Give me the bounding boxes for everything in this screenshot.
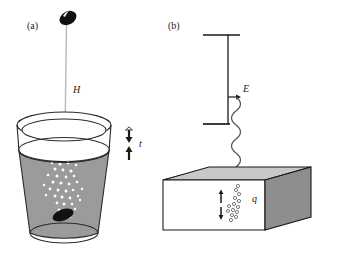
field-label: E [242,83,249,94]
beaker [17,112,111,243]
down-arrow-icon [126,127,133,143]
falling-object-icon [57,8,79,28]
time-indicator: t [126,127,143,160]
panel-b: (b) E [163,20,311,230]
panel-a: (a) H [17,8,142,243]
scientific-figure: (a) H [0,0,337,259]
time-label: t [139,138,142,149]
up-arrow-icon [126,146,133,160]
panel-a-label: (a) [27,20,38,32]
panel-b-label: (b) [168,20,180,32]
figure-canvas: (a) H [0,0,337,259]
slab-block [163,167,311,230]
height-label: H [72,84,81,95]
charge-label: q [252,193,257,204]
field-arrow-icon [228,95,241,100]
slab-front-face [163,180,265,230]
liquid-body [19,151,109,238]
